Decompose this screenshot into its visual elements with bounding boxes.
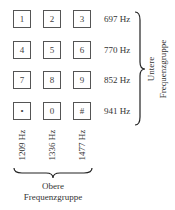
lower-group-label-line2: Frequenzgruppe (158, 36, 168, 102)
upper-group-label-line1: Obere (13, 181, 93, 192)
right-brace-icon (135, 12, 145, 125)
upper-group-label: Obere Frequenzgruppe (13, 181, 93, 203)
bottom-brace-icon (14, 168, 92, 178)
braces (0, 0, 175, 210)
lower-group-label-line1: Untere (146, 44, 156, 94)
upper-group-label-line2: Frequenzgruppe (13, 192, 93, 203)
lower-group-label-text: Frequenzgruppe (158, 40, 168, 98)
